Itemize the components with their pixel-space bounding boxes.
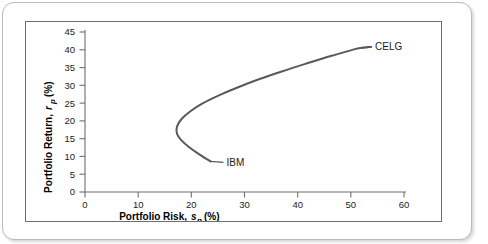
y-axis-tick-labels: 45 40 35 30 25 20 15 10 5 0 [64,26,75,197]
y-axis-title-main: Portfolio Return, [43,114,54,193]
portfolio-frontier-chart: 45 40 35 30 25 20 15 10 5 0 [26,22,441,221]
y-tick-label: 45 [64,26,75,37]
x-tick-label: 0 [82,199,87,210]
y-tick-label: 25 [64,98,75,109]
x-tick-label: 50 [346,199,357,210]
y-axis-title-subscript: p [48,99,57,105]
y-axis-title: Portfolio Return, r p (%) [43,81,57,192]
x-axis-tick-labels: 0 10 20 30 40 50 60 [82,199,409,210]
x-axis-title-unit: (%) [204,211,220,221]
y-axis-title-unit: (%) [43,81,54,97]
x-tick-label: 10 [133,199,144,210]
x-tick-label: 30 [239,199,250,210]
y-axis-ticks [80,32,86,192]
y-tick-label: 5 [70,169,75,180]
y-tick-label: 10 [64,151,75,162]
y-axis-title-symbol: r [43,105,54,110]
y-tick-label: 0 [70,186,75,197]
y-tick-label: 20 [64,115,75,126]
celg-label: CELG [375,41,402,52]
y-tick-label: 30 [64,80,75,91]
x-tick-label: 60 [399,199,410,210]
plot-frame: 45 40 35 30 25 20 15 10 5 0 [25,21,442,222]
ibm-leader-line [210,161,223,162]
x-axis-title-main: Portfolio Risk, [119,211,187,221]
y-tick-label: 40 [64,44,75,55]
efficient-frontier-curve [176,47,371,161]
figure-card: 45 40 35 30 25 20 15 10 5 0 [2,2,472,240]
x-axis-title: Portfolio Risk, s p (%) [119,211,219,221]
x-tick-label: 40 [292,199,303,210]
y-tick-label: 35 [64,62,75,73]
ibm-label: IBM [226,157,244,168]
x-axis-title-subscript: p [196,216,202,221]
x-tick-label: 20 [186,199,197,210]
x-axis-ticks [85,192,404,198]
y-tick-label: 15 [64,133,75,144]
